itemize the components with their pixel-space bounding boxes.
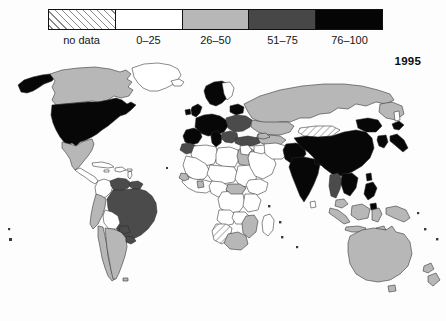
region-mozambique [242, 215, 258, 238]
region-australia [348, 226, 412, 282]
region-falklands [123, 278, 128, 281]
legend-label-26-50: 26–50 [182, 32, 249, 48]
region-iberia [183, 128, 202, 145]
region-greenland [132, 63, 181, 91]
region-south-africa [224, 232, 248, 250]
region-central-america [75, 168, 98, 184]
region-alaska [18, 74, 55, 93]
legend-label-0-25: 0–25 [115, 32, 182, 48]
region-jamaica [104, 170, 109, 172]
region-russia-far-east [379, 102, 404, 120]
island-dot-pacific-a [424, 228, 426, 230]
island-dot-pacific-c [417, 212, 419, 214]
region-malaysia [335, 199, 348, 208]
region-ecuador-peru [90, 194, 106, 229]
island-dot-hawaii-b [9, 238, 12, 241]
region-russia [244, 84, 394, 124]
region-libya [216, 147, 239, 167]
region-sumatra [329, 208, 350, 224]
region-guianas [129, 181, 143, 189]
island-dot-pacific-d [296, 246, 298, 248]
region-philippines [364, 182, 377, 210]
region-manchuria [356, 118, 382, 132]
region-baltics [230, 104, 244, 115]
legend-label-no-data: no data [48, 32, 115, 48]
region-drc [218, 191, 245, 213]
region-ethiopia-somalia [246, 179, 268, 195]
island-dot-indian-b [279, 221, 281, 223]
legend-swatch-51-75 [249, 10, 316, 29]
region-ghana-togo [197, 181, 204, 188]
choropleth-figure: no data 0–25 26–50 51–75 76–100 1995 [0, 0, 446, 321]
region-papua-new-guinea [386, 206, 410, 222]
region-venezuela [110, 178, 131, 191]
region-cuba [92, 162, 114, 168]
island-dot-indian-c [281, 236, 283, 238]
legend-labels: no data 0–25 26–50 51–75 76–100 [48, 32, 383, 48]
region-sri-lanka [310, 201, 316, 208]
region-ireland [185, 109, 191, 115]
legend-swatch-76-100 [316, 10, 382, 29]
region-kazakhstan [251, 120, 294, 135]
region-taiwan [366, 173, 372, 181]
legend-colorbar [48, 9, 383, 30]
region-eastern-europe [226, 115, 252, 132]
island-dot-atlantic [166, 167, 168, 169]
region-hispaniola [115, 167, 126, 172]
legend-label-76-100: 76–100 [316, 32, 383, 48]
region-sakhalin [394, 111, 400, 121]
region-thailand-myanmar [329, 173, 342, 198]
region-united-states [51, 98, 136, 146]
region-borneo [351, 204, 370, 220]
region-korea [377, 135, 388, 148]
legend-label-51-75: 51–75 [249, 32, 316, 48]
world-map [0, 60, 446, 321]
region-sulawesi [372, 208, 382, 222]
region-new-zealand [423, 263, 440, 286]
region-japan [390, 121, 408, 152]
region-lesser-antilles [128, 171, 132, 179]
legend-swatch-26-50 [183, 10, 250, 29]
region-madagascar [262, 214, 274, 236]
region-british-isles [191, 104, 202, 117]
island-dot-indian-a [268, 205, 270, 207]
region-turkey [235, 136, 260, 146]
region-tasmania [388, 285, 396, 292]
island-dot-hawaii-a [8, 228, 10, 230]
region-kenya-tanzania [243, 194, 261, 212]
legend-swatch-no-data [49, 10, 116, 29]
region-puerto-rico [127, 169, 132, 171]
island-dot-pacific-b [436, 238, 438, 240]
region-indochina [341, 173, 358, 196]
legend-swatch-0-25 [116, 10, 183, 29]
